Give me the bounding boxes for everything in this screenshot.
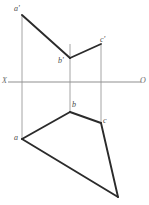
axis-label-x: X (2, 77, 7, 85)
top-edge-c-d (101, 123, 118, 197)
top-edge-b-c (70, 112, 101, 123)
vertex-label-c-front: c' (100, 36, 105, 44)
frontal-view-edges (22, 15, 101, 58)
vertex-label-a-top: a (14, 134, 18, 142)
front-edge-a-b (22, 15, 70, 58)
vertex-label-a-front: a' (14, 5, 20, 13)
top-edge-a-b (22, 112, 70, 139)
top-edge-a-d (22, 139, 118, 197)
front-edge-b-c (70, 44, 101, 58)
projector-lines-group (22, 15, 101, 139)
vertex-label-b-front: b' (58, 57, 64, 65)
vertex-label-c-top: c (103, 117, 107, 125)
vertex-label-b-top: b (72, 101, 76, 109)
geometry-figure: a' b' c' a b c X O (0, 0, 149, 205)
axis-label-o: O (140, 77, 146, 85)
